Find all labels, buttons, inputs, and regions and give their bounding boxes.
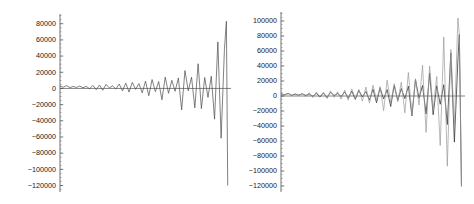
y-axis-tick-label: −100000: [28, 165, 56, 174]
y-axis-tick-label: 60000: [36, 35, 56, 44]
y-axis-tick-label: −80000: [32, 148, 56, 157]
data-series-line-solution-a: [281, 35, 461, 187]
left-plot-panel: 800006000040000200000−20000−40000−60000−…: [0, 0, 237, 204]
right-plot-panel: 100000800006000040000200000−20000−40000−…: [237, 0, 474, 204]
y-axis-tick-label: 20000: [36, 68, 56, 77]
y-axis-tick-label: 100000: [253, 16, 277, 25]
y-axis-tick-label: 0: [273, 91, 277, 100]
right-plot-svg: 100000800006000040000200000−20000−40000−…: [237, 0, 474, 204]
y-axis-tick-label: 80000: [257, 31, 277, 40]
y-axis-tick-label: 60000: [257, 46, 277, 55]
y-axis-tick-label: −100000: [249, 166, 277, 175]
y-axis-tick-label: 0: [52, 84, 56, 93]
figure-container: 800006000040000200000−20000−40000−60000−…: [0, 0, 474, 204]
y-axis-tick-label: −80000: [253, 151, 277, 160]
y-axis-tick-label: 20000: [257, 76, 277, 85]
y-axis-tick-label: −60000: [253, 136, 277, 145]
y-axis-tick-label: 40000: [36, 51, 56, 60]
y-axis-tick-label: −120000: [28, 181, 56, 190]
data-series-line-solution-a: [60, 21, 228, 185]
y-axis-tick-label: −40000: [253, 121, 277, 130]
y-axis-tick-label: −40000: [32, 116, 56, 125]
y-axis-tick-label: 80000: [36, 19, 56, 28]
y-axis-tick-label: −20000: [32, 100, 56, 109]
y-axis-tick-label: −20000: [253, 106, 277, 115]
left-plot-svg: 800006000040000200000−20000−40000−60000−…: [0, 0, 237, 204]
y-axis-tick-label: −120000: [249, 181, 277, 190]
y-axis-tick-label: −60000: [32, 132, 56, 141]
y-axis-tick-label: 40000: [257, 61, 277, 70]
